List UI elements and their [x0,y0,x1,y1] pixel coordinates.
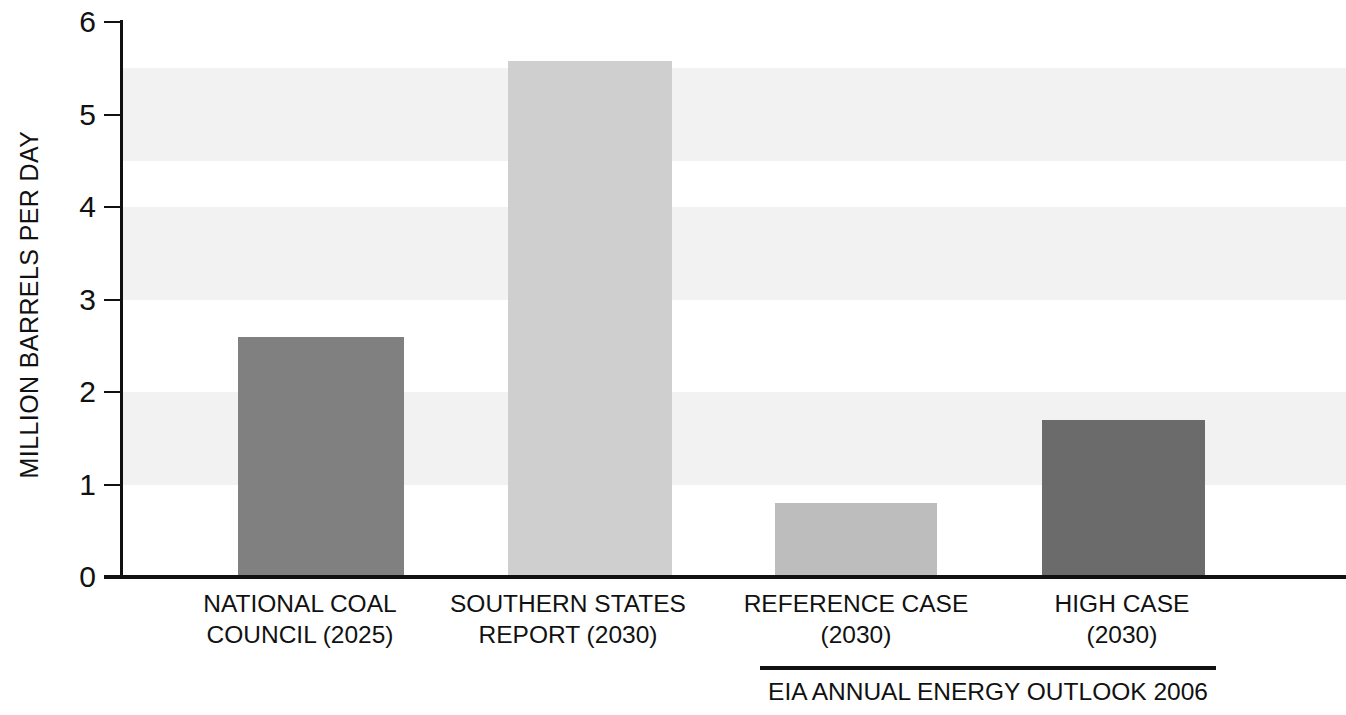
y-tick-label-6: 6 [56,7,96,37]
background-band-3-4 [122,207,1346,300]
category-label-line2: REPORT (2030) [413,619,723,650]
y-axis-line [120,20,123,579]
y-tick-label-2: 2 [56,377,96,407]
y-tick-mark-2 [104,391,120,393]
y-tick-mark-6 [104,21,120,23]
group-bracket-rule [760,666,1216,670]
y-tick-mark-4 [104,206,120,208]
y-tick-mark-5 [104,114,120,116]
category-label-line2: COUNCIL (2025) [145,619,455,650]
category-label-line1: HIGH CASE [967,588,1277,619]
category-label-line1: REFERENCE CASE [701,588,1011,619]
bar-chart-figure: 6 5 4 3 2 1 0 MILLION BARRELS PER DAY NA… [0,0,1346,715]
y-tick-mark-3 [104,299,120,301]
y-tick-mark-1 [104,484,120,486]
y-tick-label-3: 3 [56,285,96,315]
category-label-high-case: HIGH CASE (2030) [967,588,1277,650]
category-label-southern-states-report: SOUTHERN STATES REPORT (2030) [413,588,723,650]
bar-high-case [1042,420,1205,577]
background-band-5-6 [122,68,1346,161]
y-tick-label-1: 1 [56,470,96,500]
category-label-line1: NATIONAL COAL [145,588,455,619]
category-label-line2: (2030) [701,619,1011,650]
y-tick-mark-0 [104,576,120,578]
plot-area [122,22,1346,577]
x-axis-line [104,575,1346,579]
group-label-eia-annual-energy-outlook: EIA ANNUAL ENERGY OUTLOOK 2006 [722,676,1254,707]
y-tick-label-0: 0 [56,562,96,592]
bar-reference-case [775,503,937,577]
y-tick-label-5: 5 [56,100,96,130]
y-axis-title: MILLION BARRELS PER DAY [15,45,44,565]
bar-national-coal-council [238,337,404,578]
category-label-national-coal-council: NATIONAL COAL COUNCIL (2025) [145,588,455,650]
category-label-line1: SOUTHERN STATES [413,588,723,619]
y-tick-label-4: 4 [56,192,96,222]
category-label-reference-case: REFERENCE CASE (2030) [701,588,1011,650]
bar-southern-states-report [508,61,672,577]
category-label-line2: (2030) [967,619,1277,650]
